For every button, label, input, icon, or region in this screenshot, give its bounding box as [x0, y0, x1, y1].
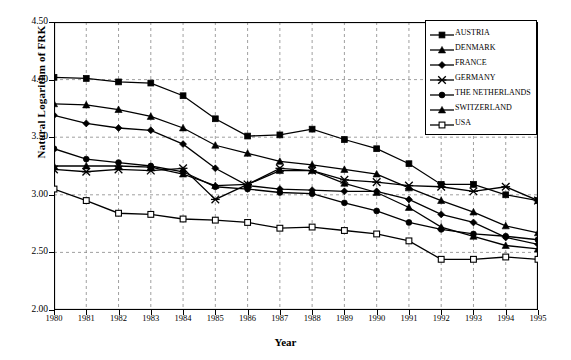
y-tick-label: 4.00	[2, 74, 48, 84]
legend-label: THE NETHERLANDS	[455, 88, 531, 97]
y-axis-title: Natural Logarithm of FRK	[35, 7, 47, 177]
x-tick-mark	[441, 310, 442, 315]
y-tick-label: 2.50	[2, 246, 48, 256]
legend-label: USA	[455, 118, 471, 127]
y-tick-label: 3.00	[2, 189, 48, 199]
legend-marker-filled-diamond-icon	[429, 57, 455, 69]
x-tick-mark	[248, 310, 249, 315]
x-tick-mark	[183, 310, 184, 315]
legend-label: DENMARK	[455, 43, 495, 52]
legend-marker-filled-triangle-icon	[429, 102, 455, 114]
legend-label: GERMANY	[455, 73, 495, 82]
chart-figure: Natural Logarithm of FRK Year 4.504.003.…	[0, 0, 571, 360]
legend-item: USA	[429, 115, 532, 130]
x-tick-mark	[54, 310, 55, 315]
x-tick-mark	[409, 310, 410, 315]
legend-marker-cross-star-icon	[429, 72, 455, 84]
x-tick-mark	[344, 310, 345, 315]
x-axis-title: Year	[0, 336, 571, 348]
y-tick-label: 4.50	[2, 16, 48, 26]
legend-item: SWITZERLAND	[429, 100, 532, 115]
legend-marker-filled-square-icon	[429, 27, 455, 39]
series-usa	[54, 186, 538, 262]
legend-item: THE NETHERLANDS	[429, 85, 532, 100]
legend-marker-filled-circle-icon	[429, 87, 455, 99]
x-tick-mark	[86, 310, 87, 315]
y-tick-label: 3.50	[2, 131, 48, 141]
series-switzerland	[54, 162, 538, 251]
x-tick-mark	[119, 310, 120, 315]
x-tick-mark	[506, 310, 507, 315]
legend-label: AUSTRIA	[455, 28, 490, 37]
x-tick-mark	[151, 310, 152, 315]
legend-item: FRANCE	[429, 55, 532, 70]
legend-item: DENMARK	[429, 40, 532, 55]
x-tick-mark	[312, 310, 313, 315]
legend-item: GERMANY	[429, 70, 532, 85]
chart-legend: AUSTRIADENMARKFRANCEGERMANYTHE NETHERLAN…	[425, 20, 537, 135]
x-tick-mark	[215, 310, 216, 315]
x-tick-mark	[473, 310, 474, 315]
legend-item: AUSTRIA	[429, 25, 532, 40]
legend-label: SWITZERLAND	[455, 103, 512, 112]
legend-label: FRANCE	[455, 58, 487, 67]
x-tick-mark	[377, 310, 378, 315]
x-tick-mark	[280, 310, 281, 315]
x-tick-mark	[538, 310, 539, 315]
legend-marker-open-square-icon	[429, 117, 455, 129]
legend-marker-filled-triangle-icon	[429, 42, 455, 54]
